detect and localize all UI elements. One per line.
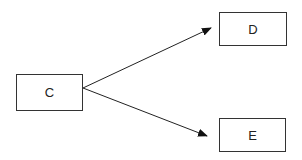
edge-c-to-d — [83, 28, 211, 88]
node-c-label: C — [45, 85, 54, 100]
node-d-label: D — [248, 22, 257, 37]
diagram-canvas: C D E — [0, 0, 302, 160]
edge-c-to-e — [83, 88, 207, 136]
node-e-label: E — [248, 128, 257, 143]
node-c: C — [16, 74, 83, 111]
node-e: E — [219, 118, 286, 152]
node-d: D — [219, 12, 287, 46]
